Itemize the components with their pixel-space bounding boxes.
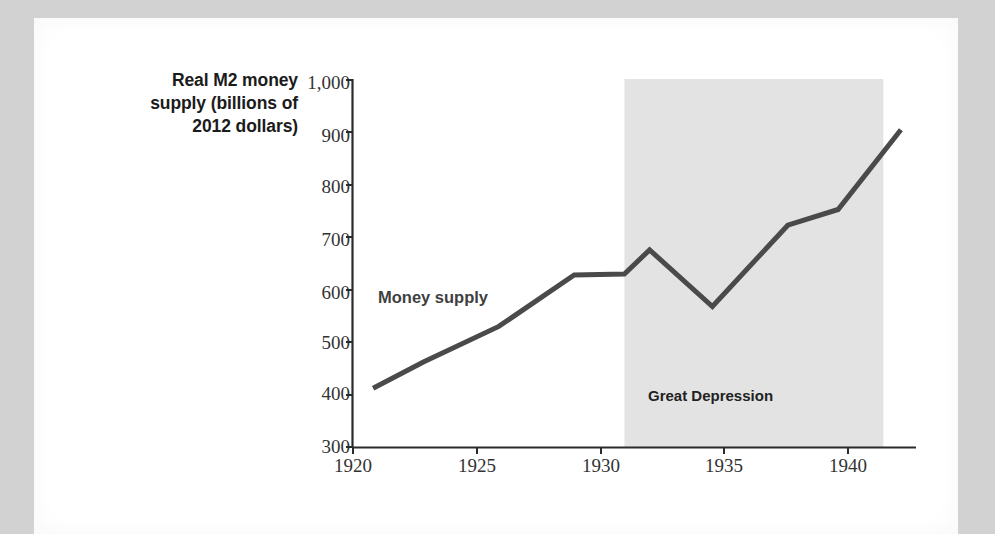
chart-figure: Real M2 money supply (billions of 2012 d… [0, 0, 995, 534]
money-supply-label: Money supply [378, 288, 488, 307]
plot-area [0, 0, 995, 534]
page-background: Real M2 money supply (billions of 2012 d… [0, 0, 995, 534]
great-depression-label: Great Depression [648, 387, 773, 404]
y-axis-ticks [346, 80, 352, 447]
